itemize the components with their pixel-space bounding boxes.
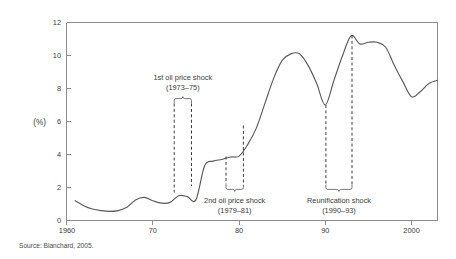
shock3-label-line2: (1990–93) bbox=[322, 206, 356, 215]
y-label-0: 0 bbox=[57, 216, 61, 225]
y-label-2: 2 bbox=[57, 183, 61, 192]
y-axis-labels: 12 10 8 6 4 2 0 bbox=[53, 18, 61, 225]
y-label-8: 8 bbox=[57, 84, 61, 93]
plot-frame bbox=[67, 23, 438, 221]
x-label-1970: 70 bbox=[149, 226, 157, 235]
annotation-first-oil-shock: 1st oil price shock (1973–75) bbox=[153, 73, 212, 193]
series-unemployment-rate bbox=[75, 35, 437, 211]
source-note: Source: Blanchard, 2005. bbox=[19, 242, 94, 249]
y-label-6: 6 bbox=[57, 117, 61, 126]
x-label-1980: 80 bbox=[235, 226, 243, 235]
y-label-12: 12 bbox=[53, 18, 61, 27]
shock2-label-line2: (1979–81) bbox=[218, 206, 252, 215]
x-axis-ticks bbox=[67, 221, 412, 225]
x-label-1990: 90 bbox=[321, 226, 329, 235]
unemployment-line-chart: 12 10 8 6 4 2 0 (%) 1960 70 80 90 2000 bbox=[0, 0, 456, 259]
shock2-brace bbox=[226, 185, 243, 191]
shock1-brace bbox=[174, 97, 191, 103]
y-label-4: 4 bbox=[57, 150, 61, 159]
shock3-label-line1: Reunification shock bbox=[307, 196, 371, 205]
x-axis-labels: 1960 70 80 90 2000 bbox=[59, 226, 420, 235]
x-label-2000: 2000 bbox=[403, 226, 419, 235]
chart-figure: 12 10 8 6 4 2 0 (%) 1960 70 80 90 2000 bbox=[0, 0, 456, 259]
y-axis-unit-label: (%) bbox=[33, 118, 46, 127]
y-axis-ticks bbox=[67, 23, 71, 221]
annotation-second-oil-shock: 2nd oil price shock (1979–81) bbox=[204, 126, 266, 215]
shock2-label-line1: 2nd oil price shock bbox=[204, 196, 266, 205]
annotation-reunification-shock: Reunification shock (1990–93) bbox=[307, 36, 371, 215]
x-label-1960: 1960 bbox=[59, 226, 75, 235]
shock3-brace bbox=[326, 185, 352, 191]
y-label-10: 10 bbox=[53, 51, 61, 60]
shock1-label-line1: 1st oil price shock bbox=[153, 73, 212, 82]
shock1-label-line2: (1973–75) bbox=[166, 83, 200, 92]
